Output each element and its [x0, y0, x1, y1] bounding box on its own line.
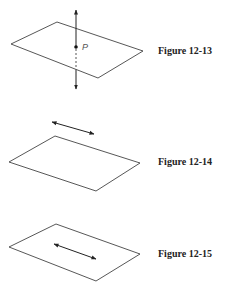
point-p-dot	[74, 45, 78, 49]
line-in-plane-arrow	[54, 244, 96, 259]
plane-parallelogram	[9, 136, 140, 191]
figure-12-15-diagram	[9, 224, 140, 281]
figure-12-13-caption: Figure 12-13	[158, 45, 212, 56]
plane-parallelogram	[9, 224, 140, 281]
figure-12-14-diagram	[9, 122, 140, 191]
figure-12-15-caption: Figure 12-15	[158, 248, 212, 259]
parallel-line-arrow	[52, 122, 94, 134]
figure-12-13-diagram	[11, 10, 143, 89]
plane-parallelogram	[11, 22, 143, 78]
figure-12-14-caption: Figure 12-14	[158, 156, 212, 167]
point-p-label: P	[82, 42, 88, 52]
